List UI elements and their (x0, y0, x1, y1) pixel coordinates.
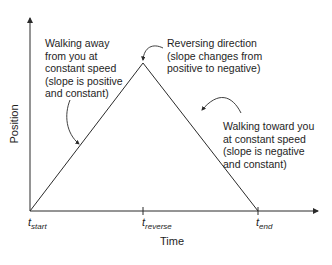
rising-leader-arrow (67, 100, 79, 144)
annotation-falling: Walking toward you at constant speed (sl… (223, 120, 314, 170)
y-axis-title: Position (8, 104, 20, 143)
tick-label-reverse: treverse (142, 216, 172, 231)
annotation-rising: Walking away from you at constant speed … (45, 37, 123, 100)
falling-leader-arrow (202, 98, 241, 113)
peak-leader-arrow (143, 46, 163, 60)
tick-label-end: tend (256, 216, 272, 231)
tick-label-start: tstart (28, 216, 47, 231)
x-axis-title: Time (160, 235, 184, 247)
annotation-peak: Reversing direction (slope changes from … (167, 37, 262, 75)
